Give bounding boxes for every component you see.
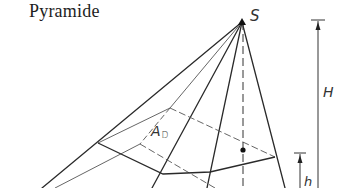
- area-label-main: A: [151, 123, 161, 139]
- apex-marker: [238, 18, 246, 25]
- pyramid-drawing: [0, 0, 352, 188]
- dimension-H: [311, 20, 325, 188]
- apex-label: S: [250, 7, 260, 25]
- area-label: AD: [151, 123, 169, 140]
- back-edge: [55, 22, 242, 188]
- total-height-label: H: [323, 84, 334, 100]
- centroid-dot: [240, 147, 245, 152]
- section-edges: [98, 143, 275, 174]
- frustum-height-label: h: [304, 174, 312, 188]
- hidden-edges: [140, 108, 275, 188]
- edge-front-left: [152, 22, 242, 188]
- area-label-subscript: D: [162, 130, 169, 140]
